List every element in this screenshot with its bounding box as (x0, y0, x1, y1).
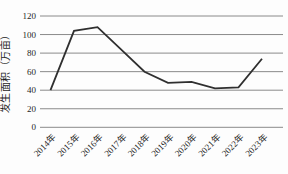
data-series-line (51, 27, 263, 90)
x-tick-label: 2019年 (149, 132, 176, 159)
y-tick-label: 100 (23, 30, 37, 40)
x-tick-label: 2018年 (125, 132, 152, 159)
line-chart: 0204060801001202014年2015年2016年2017年2018年… (0, 0, 288, 174)
line-chart-figure: 0204060801001202014年2015年2016年2017年2018年… (0, 0, 288, 174)
x-tick-label: 2017年 (102, 132, 129, 159)
x-tick-label: 2022年 (219, 132, 246, 159)
y-tick-label: 20 (27, 104, 37, 114)
x-tick-label: 2023年 (243, 132, 270, 159)
x-tick-label: 2021年 (196, 132, 223, 159)
y-axis-title: 发生面积（万亩） (0, 29, 11, 113)
x-tick-label: 2015年 (55, 132, 82, 159)
y-tick-label: 0 (32, 122, 37, 132)
y-tick-label: 120 (23, 11, 37, 21)
y-tick-label: 60 (27, 67, 37, 77)
x-tick-label: 2016年 (78, 132, 105, 159)
y-tick-label: 80 (27, 48, 37, 58)
x-tick-label: 2014年 (31, 132, 58, 159)
y-tick-label: 40 (27, 85, 37, 95)
x-tick-label: 2020年 (172, 132, 199, 159)
